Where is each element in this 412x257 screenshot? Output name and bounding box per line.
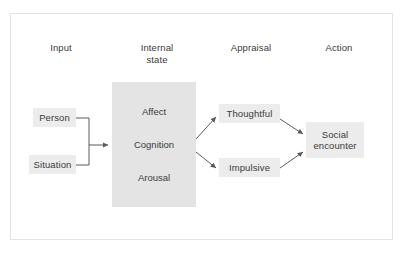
wire-inputs-to-internal-state	[76, 118, 108, 165]
wire-internal-state-to-thoughtful	[196, 117, 216, 139]
internal-state-item-affect: Affect	[112, 106, 196, 118]
wire-thoughtful-to-social-encounter	[280, 119, 303, 134]
diagram-canvas: Input Internal state Appraisal Action Pe…	[0, 0, 412, 257]
internal-state-item-arousal: Arousal	[112, 172, 196, 184]
node-social-encounter[interactable]: Social encounter	[306, 122, 364, 158]
node-thoughtful[interactable]: Thoughtful	[219, 104, 280, 123]
wire-impulsive-to-social-encounter	[280, 152, 303, 168]
node-impulsive[interactable]: Impulsive	[219, 158, 280, 177]
internal-state-item-cognition: Cognition	[112, 139, 196, 151]
node-person[interactable]: Person	[33, 108, 76, 127]
node-internal-state-block[interactable]: Affect Cognition Arousal	[112, 82, 196, 207]
node-situation[interactable]: Situation	[29, 155, 76, 174]
wire-internal-state-to-impulsive	[196, 152, 216, 168]
